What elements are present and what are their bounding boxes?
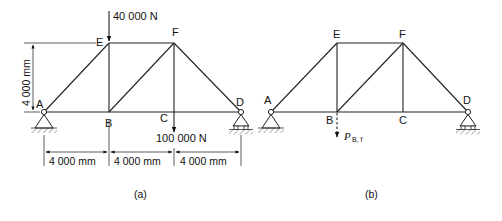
node-label-E: E bbox=[96, 36, 103, 48]
node-label-E: E bbox=[333, 28, 340, 40]
span-label-BC: 4 000 mm bbox=[114, 155, 161, 167]
member-BF bbox=[337, 43, 403, 112]
load-label-C: 100 000 N bbox=[156, 132, 207, 144]
member-BF bbox=[109, 43, 174, 112]
truss-members-b bbox=[271, 43, 468, 112]
roller-support-icon bbox=[229, 109, 253, 134]
node-label-F: F bbox=[172, 26, 179, 38]
node-label-C: C bbox=[399, 114, 407, 126]
node-label-D: D bbox=[236, 96, 244, 108]
panel-b: A B C D E F P B, f (b) bbox=[258, 28, 480, 200]
span-label-AB: 4 000 mm bbox=[49, 155, 96, 167]
pin-support-icon bbox=[258, 109, 284, 133]
load-label-subscript: B, f bbox=[352, 136, 363, 143]
member-AE bbox=[44, 43, 109, 112]
truss-figure: A B C D E F 40 000 N 100 000 N 4 000 mm bbox=[0, 0, 502, 221]
node-label-F: F bbox=[399, 28, 406, 40]
load-arrow-E: 40 000 N bbox=[109, 10, 158, 41]
caption-a: (a) bbox=[134, 188, 147, 200]
load-label-P: P bbox=[343, 130, 351, 142]
span-label-CD: 4 000 mm bbox=[180, 155, 227, 167]
span-dimensions: 4 000 mm 4 000 mm 4 000 mm bbox=[44, 120, 241, 167]
node-label-D: D bbox=[463, 94, 471, 106]
node-label-A: A bbox=[36, 98, 44, 110]
member-FD bbox=[174, 43, 241, 112]
member-AE bbox=[271, 43, 337, 112]
pin-support-icon bbox=[31, 109, 57, 133]
load-label-E: 40 000 N bbox=[113, 10, 158, 22]
node-label-C: C bbox=[160, 112, 168, 124]
height-dimension: 4 000 mm bbox=[20, 43, 96, 112]
panel-a: A B C D E F 40 000 N 100 000 N 4 000 mm bbox=[20, 10, 253, 200]
roller-support-icon bbox=[456, 109, 480, 134]
height-label: 4 000 mm bbox=[20, 59, 32, 106]
caption-b: (b) bbox=[365, 188, 378, 200]
member-FD bbox=[403, 43, 468, 112]
node-label-B: B bbox=[326, 114, 333, 126]
node-label-A: A bbox=[264, 94, 272, 106]
load-arrow-B-dashed: P B, f bbox=[337, 113, 363, 143]
truss-members-a bbox=[44, 43, 241, 112]
